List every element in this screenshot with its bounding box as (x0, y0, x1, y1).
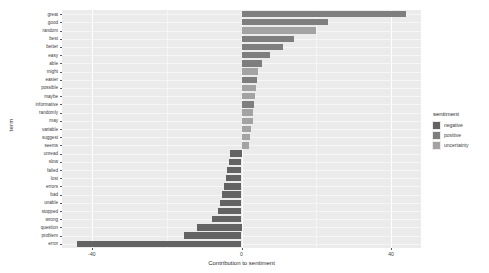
y-axis-tick-labels: greatgoodrandombestbettereasyablemightea… (0, 10, 58, 248)
y-tick-label: unable (2, 200, 58, 205)
chart-root: term greatgoodrandombestbettereasyablemi… (0, 0, 489, 273)
bar-maybe[interactable] (242, 93, 255, 99)
bar-slow[interactable] (229, 159, 242, 165)
bar-easy[interactable] (242, 52, 270, 58)
y-tick-label: better (2, 44, 58, 49)
y-tick-label: wrong (2, 217, 58, 222)
bar-errors[interactable] (224, 183, 241, 189)
bar-row (62, 125, 421, 133)
x-tick-label: 40 (388, 251, 394, 257)
bar-random[interactable] (242, 27, 317, 33)
bar-easier[interactable] (242, 77, 258, 83)
bar-suggest[interactable] (242, 134, 251, 140)
x-tick-label: -40 (88, 251, 95, 257)
y-tick-label: great (2, 12, 58, 17)
bar-better[interactable] (242, 44, 283, 50)
bar-row (62, 232, 421, 240)
bar-row (62, 109, 421, 117)
bar-row (62, 27, 421, 35)
bar-row (62, 215, 421, 223)
bar-row (62, 223, 421, 231)
y-tick-label: maybe (2, 94, 58, 99)
bar-unable[interactable] (220, 200, 242, 206)
bar-seems[interactable] (242, 142, 249, 148)
bar-best[interactable] (242, 36, 294, 42)
y-tick-label: failed (2, 168, 58, 173)
legend-key (432, 121, 441, 130)
bar-row (62, 158, 421, 166)
bar-row (62, 141, 421, 149)
y-tick-label: bad (2, 192, 58, 197)
bar-row (62, 76, 421, 84)
bar-row (62, 43, 421, 51)
bar-failed[interactable] (227, 167, 241, 173)
y-tick-label: easy (2, 53, 58, 58)
bar-series (62, 10, 421, 248)
y-tick-label: variable (2, 127, 58, 132)
bar-may[interactable] (242, 118, 253, 124)
bar-row (62, 68, 421, 76)
legend-swatch-negative (433, 122, 440, 129)
bar-row (62, 166, 421, 174)
bar-lost[interactable] (226, 175, 242, 181)
legend-label: negative (444, 122, 463, 128)
bar-bad[interactable] (222, 191, 241, 197)
y-tick-label: random (2, 28, 58, 33)
y-tick-label: suggest (2, 135, 58, 140)
bar-able[interactable] (242, 60, 263, 66)
bar-row (62, 174, 421, 182)
bar-informative[interactable] (242, 101, 255, 107)
bar-error[interactable] (77, 241, 242, 247)
bar-might[interactable] (242, 68, 259, 74)
legend-title: sentiment (433, 111, 488, 117)
bar-variable[interactable] (242, 126, 252, 132)
legend: sentiment negativepositiveuncertainty (432, 111, 488, 150)
x-tick-mark (92, 248, 93, 250)
bar-good[interactable] (242, 19, 328, 25)
bar-wrong[interactable] (212, 216, 242, 222)
y-tick-label: randomly (2, 110, 58, 115)
y-tick-label: might (2, 69, 58, 74)
x-axis-tick-labels: -40040 (62, 251, 421, 259)
bar-stopped[interactable] (218, 208, 242, 214)
bar-row (62, 51, 421, 59)
y-tick-label: unread (2, 151, 58, 156)
y-tick-label: good (2, 20, 58, 25)
y-tick-label: best (2, 36, 58, 41)
legend-label: positive (444, 132, 461, 138)
bar-question[interactable] (197, 224, 242, 230)
bar-row (62, 35, 421, 43)
legend-key (432, 141, 441, 150)
y-tick-label: seems (2, 143, 58, 148)
bar-row (62, 92, 421, 100)
y-tick-label: easier (2, 77, 58, 82)
bar-row (62, 59, 421, 67)
y-tick-label: stopped (2, 209, 58, 214)
bar-unread[interactable] (230, 150, 241, 156)
legend-item-negative[interactable]: negative (432, 120, 488, 130)
bar-row (62, 150, 421, 158)
legend-item-uncertainty[interactable]: uncertainty (432, 140, 488, 150)
bar-problem[interactable] (184, 232, 242, 238)
x-tick-mark (391, 248, 392, 250)
x-tick-mark (242, 248, 243, 250)
legend-item-positive[interactable]: positive (432, 130, 488, 140)
y-tick-label: errors (2, 184, 58, 189)
bar-randomly[interactable] (242, 109, 254, 115)
bar-row (62, 84, 421, 92)
bar-great[interactable] (242, 11, 407, 17)
bar-row (62, 240, 421, 248)
legend-key (432, 131, 441, 140)
y-tick-label: question (2, 225, 58, 230)
y-tick-label: lost (2, 176, 58, 181)
y-tick-label: informative (2, 102, 58, 107)
bar-possible[interactable] (242, 85, 257, 91)
y-tick-label: error (2, 241, 58, 246)
legend-label: uncertainty (444, 142, 468, 148)
legend-swatch-uncertainty (433, 142, 440, 149)
y-tick-label: possible (2, 85, 58, 90)
bar-row (62, 133, 421, 141)
y-tick-label: may (2, 118, 58, 123)
bar-row (62, 10, 421, 18)
y-tick-label: able (2, 61, 58, 66)
